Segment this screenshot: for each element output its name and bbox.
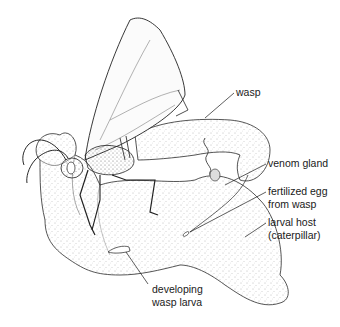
label-fertilized-egg-line1: fertilized egg [268,185,328,198]
label-developing-larva: developing wasp larva [152,283,203,308]
label-fertilized-egg-line2: from wasp [268,198,328,211]
label-fertilized-egg: fertilized egg from wasp [268,185,328,210]
label-developing-larva-line2: wasp larva [152,296,203,309]
label-venom-gland: venom gland [268,157,328,170]
label-larval-host-line2: (caterpillar) [268,229,321,242]
label-larval-host-line1: larval host [268,216,321,229]
label-wasp: wasp [236,86,261,99]
label-larval-host: larval host (caterpillar) [268,216,321,241]
label-developing-larva-line1: developing [152,283,203,296]
